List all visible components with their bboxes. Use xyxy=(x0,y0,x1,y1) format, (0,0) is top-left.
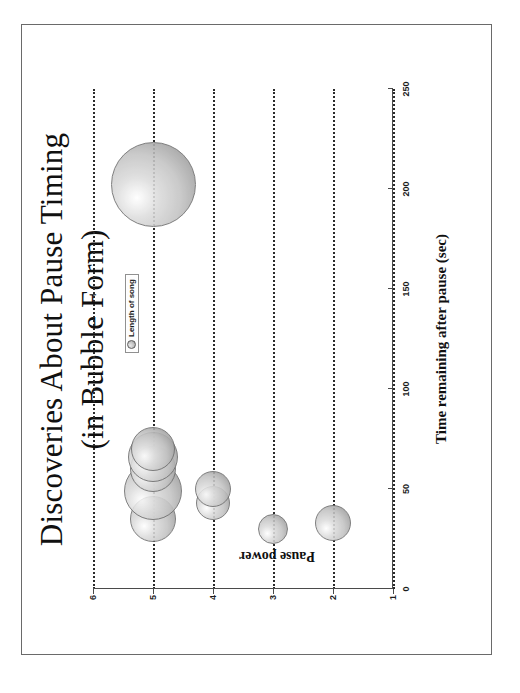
x-tick-label-100: 100 xyxy=(401,381,411,396)
x-tick-label-200: 200 xyxy=(401,181,411,196)
x-axis-line xyxy=(392,89,393,589)
y-tick-2 xyxy=(333,589,334,594)
bubble-point[interactable] xyxy=(111,143,196,228)
title-line-1: Discoveries About Pause Timing xyxy=(31,26,72,653)
bubble-point[interactable] xyxy=(258,514,288,544)
y-axis-title-wrapper: Pause power xyxy=(177,548,377,566)
y-tick-1 xyxy=(393,589,394,594)
y-tick-5 xyxy=(153,589,154,594)
x-tick-50 xyxy=(388,488,393,489)
y-tick-4 xyxy=(213,589,214,594)
bubble-point[interactable] xyxy=(195,471,231,507)
x-tick-200 xyxy=(388,188,393,189)
x-tick-label-0: 0 xyxy=(401,586,411,591)
bubble-point[interactable] xyxy=(315,505,351,541)
y-tick-3 xyxy=(273,589,274,594)
x-tick-150 xyxy=(388,288,393,289)
scanned-slide-frame: Discoveries About Pause Timing (in Bubbl… xyxy=(21,24,492,655)
y-tick-label-3: 3 xyxy=(268,595,278,607)
presentation-slide: Discoveries About Pause Timing (in Bubbl… xyxy=(23,26,490,653)
gridline-pause-power-6 xyxy=(93,89,95,589)
y-axis-title: Pause power xyxy=(239,549,315,564)
x-tick-label-50: 50 xyxy=(401,484,411,494)
y-tick-label-6: 6 xyxy=(88,595,98,607)
x-axis-title: Time remaining after pause (sec) xyxy=(433,89,450,589)
y-tick-label-4: 4 xyxy=(208,595,218,607)
x-tick-0 xyxy=(388,588,393,589)
y-tick-label-1: 1 xyxy=(388,595,398,607)
x-tick-label-250: 250 xyxy=(401,81,411,96)
x-tick-100 xyxy=(388,388,393,389)
plot-area: 123456 050100150200250 Pause power xyxy=(93,89,393,589)
x-tick-250 xyxy=(388,88,393,89)
y-tick-label-2: 2 xyxy=(328,595,338,607)
y-tick-label-5: 5 xyxy=(148,595,158,607)
x-tick-label-150: 150 xyxy=(401,281,411,296)
gridline-pause-power-1 xyxy=(393,89,395,589)
bubble-point[interactable] xyxy=(131,427,175,471)
y-axis-line xyxy=(93,588,393,589)
y-tick-6 xyxy=(93,589,94,594)
